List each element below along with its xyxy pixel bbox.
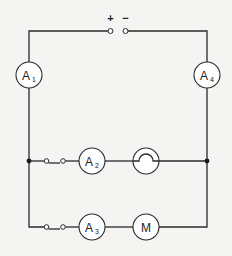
svg-text:A: A: [22, 69, 30, 83]
battery-positive-label: +: [107, 12, 113, 24]
wire-top-right: [128, 31, 207, 62]
battery-negative-terminal: [123, 29, 128, 34]
battery-positive-terminal: [108, 29, 113, 34]
wire-left-vertical: [29, 88, 44, 227]
svg-text:2: 2: [95, 162, 99, 169]
wire-right-vertical: [159, 88, 207, 227]
ammeter-a4: A 4: [194, 62, 220, 88]
junction-right: [205, 159, 210, 164]
bulb: [133, 148, 159, 174]
svg-text:3: 3: [95, 228, 99, 235]
svg-text:A: A: [85, 221, 93, 235]
switch-2: [44, 225, 65, 230]
ammeter-a2: A 2: [79, 148, 105, 174]
svg-text:4: 4: [210, 76, 214, 83]
battery-negative-label: −: [122, 12, 128, 24]
wire-top-left: [29, 31, 108, 62]
motor: M: [133, 214, 159, 240]
svg-text:M: M: [141, 221, 151, 235]
svg-text:1: 1: [32, 76, 36, 83]
switch-1: [44, 159, 65, 164]
ammeter-a3: A 3: [79, 214, 105, 240]
junction-left: [27, 159, 32, 164]
ammeter-a1: A 1: [16, 62, 42, 88]
svg-text:A: A: [85, 155, 93, 169]
svg-text:A: A: [200, 69, 208, 83]
circuit-diagram: + − A 1 A 4 A 2 A: [0, 0, 232, 256]
